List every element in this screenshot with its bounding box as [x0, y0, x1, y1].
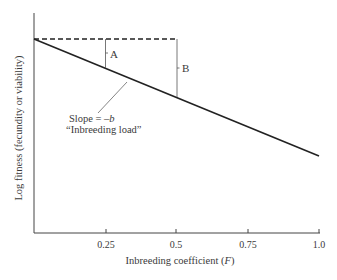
- fitness-line: [34, 39, 319, 156]
- inbreeding-load-label: “Inbreeding load”: [66, 124, 142, 135]
- x-tick-label-1: 1.0: [313, 239, 326, 250]
- chart: A B Slope = –b “Inbreeding load” 0.25 0.…: [0, 0, 337, 280]
- x-tick-label-075: 0.75: [239, 239, 257, 250]
- y-axis-title: Log fitness (fecundity or viability): [13, 55, 25, 201]
- x-tick-label-025: 0.25: [97, 239, 115, 250]
- slope-leader-line: [98, 82, 127, 113]
- x-tick-label-05: 0.5: [170, 239, 183, 250]
- x-axis-title: Inbreeding coefficient (F): [126, 255, 235, 267]
- label-b: B: [182, 62, 189, 74]
- slope-label: Slope = –b: [69, 113, 115, 124]
- label-a: A: [110, 48, 118, 60]
